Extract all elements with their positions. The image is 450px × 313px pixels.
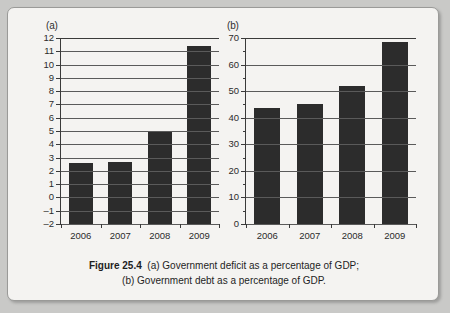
- gridline: [246, 91, 416, 92]
- y-axis-labels-b: 706050403020100: [213, 38, 239, 224]
- gridline: [61, 184, 219, 185]
- y-axis-tick-label: 9: [49, 73, 54, 83]
- y-axis-tick-label: –2: [43, 219, 54, 229]
- x-axis-tick-label: 2006: [63, 226, 99, 241]
- gridline: [61, 211, 219, 212]
- y-axis-tick-label: 8: [49, 86, 54, 96]
- gridline: [61, 171, 219, 172]
- figure-card: (a) 1211109876543210–1–2 200620072008200…: [7, 7, 439, 301]
- bar-series-b: [246, 38, 416, 224]
- y-axis-tick-label: 7: [49, 100, 54, 110]
- gridline: [61, 158, 219, 159]
- plot-canvas-b: [246, 38, 416, 224]
- caption-line-1: Figure 25.4 (a) Government deficit as a …: [8, 259, 439, 274]
- gridline: [246, 197, 416, 198]
- plot-canvas-a: [61, 38, 219, 224]
- panel-b-label: (b): [227, 20, 239, 31]
- y-axis-tick-label: 11: [44, 47, 54, 57]
- x-axis-tick-label: 2009: [377, 226, 413, 241]
- y-axis-tick-label: 4: [49, 140, 54, 150]
- x-axis-labels-b: 2006200720082009: [246, 226, 416, 246]
- y-axis-tick-label: –1: [43, 206, 54, 216]
- gridline: [61, 51, 219, 52]
- y-axis-tick-label: 30: [228, 140, 239, 150]
- chart-panel-b: (b) 706050403020100 2006200720082009: [213, 8, 423, 256]
- gridline: [246, 144, 416, 145]
- gridline: [61, 197, 219, 198]
- bar: [69, 163, 93, 224]
- gridline: [61, 91, 219, 92]
- plot-area-a: 1211109876543210–1–2 2006200720082009: [30, 38, 226, 256]
- gridline: [61, 118, 219, 119]
- gridline: [246, 171, 416, 172]
- gridline: [246, 118, 416, 119]
- x-axis-tick-label: 2008: [334, 226, 370, 241]
- y-axis-tick-label: 10: [43, 60, 54, 70]
- gridline: [61, 65, 219, 66]
- caption-text-a: (a) Government deficit as a percentage o…: [147, 260, 359, 271]
- x-axis-tick-label: 2006: [249, 226, 285, 241]
- y-axis-tick-label: 70: [228, 33, 239, 43]
- y-axis-tick-label: 2: [49, 166, 54, 176]
- gridline: [246, 65, 416, 66]
- bar: [339, 86, 365, 224]
- y-axis-tick-label: 6: [49, 113, 54, 123]
- y-axis-tick-label: 10: [228, 193, 239, 203]
- y-axis-tick-label: 50: [228, 86, 239, 96]
- bar: [254, 108, 280, 224]
- y-axis-tick-label: 3: [49, 153, 54, 163]
- figure-caption: Figure 25.4 (a) Government deficit as a …: [8, 259, 439, 288]
- bar: [297, 104, 323, 224]
- x-axis-tick-label: 2007: [292, 226, 328, 241]
- x-axis-labels-a: 2006200720082009: [61, 226, 219, 246]
- gridline: [61, 131, 219, 132]
- plot-area-b: 706050403020100 2006200720082009: [213, 38, 423, 256]
- x-axis-tick-label: 2009: [181, 226, 217, 241]
- gridline: [61, 78, 219, 79]
- panel-a-label: (a): [46, 20, 58, 31]
- y-axis-tick-label: 5: [49, 126, 54, 136]
- gridline: [61, 104, 219, 105]
- y-axis-labels-a: 1211109876543210–1–2: [30, 38, 54, 224]
- caption-figure-number: Figure 25.4: [89, 260, 142, 271]
- chart-panel-a: (a) 1211109876543210–1–2 200620072008200…: [30, 8, 226, 256]
- y-axis-tick-label: 0: [49, 193, 54, 203]
- x-axis-tick: [416, 224, 417, 228]
- y-axis-tick-label: 40: [228, 113, 239, 123]
- y-axis-tick-label: 1: [49, 179, 54, 189]
- x-axis-tick-label: 2007: [102, 226, 138, 241]
- caption-line-2: (b) Government debt as a percentage of G…: [8, 274, 439, 289]
- gridline: [61, 144, 219, 145]
- y-axis-tick-label: 0: [234, 219, 239, 229]
- x-axis-tick-label: 2008: [142, 226, 178, 241]
- y-axis-tick-label: 12: [43, 33, 54, 43]
- y-axis-tick-label: 60: [228, 60, 239, 70]
- y-axis-tick-label: 20: [228, 166, 239, 176]
- charts-row: (a) 1211109876543210–1–2 200620072008200…: [8, 8, 439, 256]
